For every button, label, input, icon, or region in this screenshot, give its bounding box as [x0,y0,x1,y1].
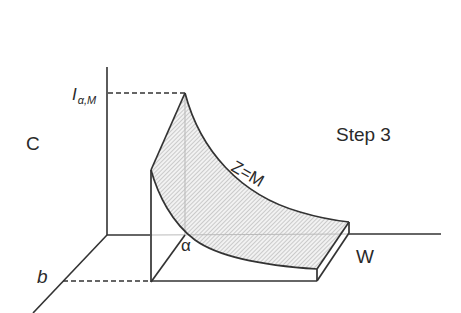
x-axis-label: W [356,246,374,267]
step-label: Step 3 [336,124,391,145]
depth-axis-value-label: b [37,266,48,287]
panel-label: C [26,133,40,154]
diagram-canvas: C Step 3 Iα,M Z=M W b α [0,0,461,313]
y-axis-value-sub: α,M [78,94,97,106]
alpha-label: α [181,236,191,255]
y-axis-value-main: I [72,85,77,104]
y-axis-value-label: Iα,M [72,85,97,106]
